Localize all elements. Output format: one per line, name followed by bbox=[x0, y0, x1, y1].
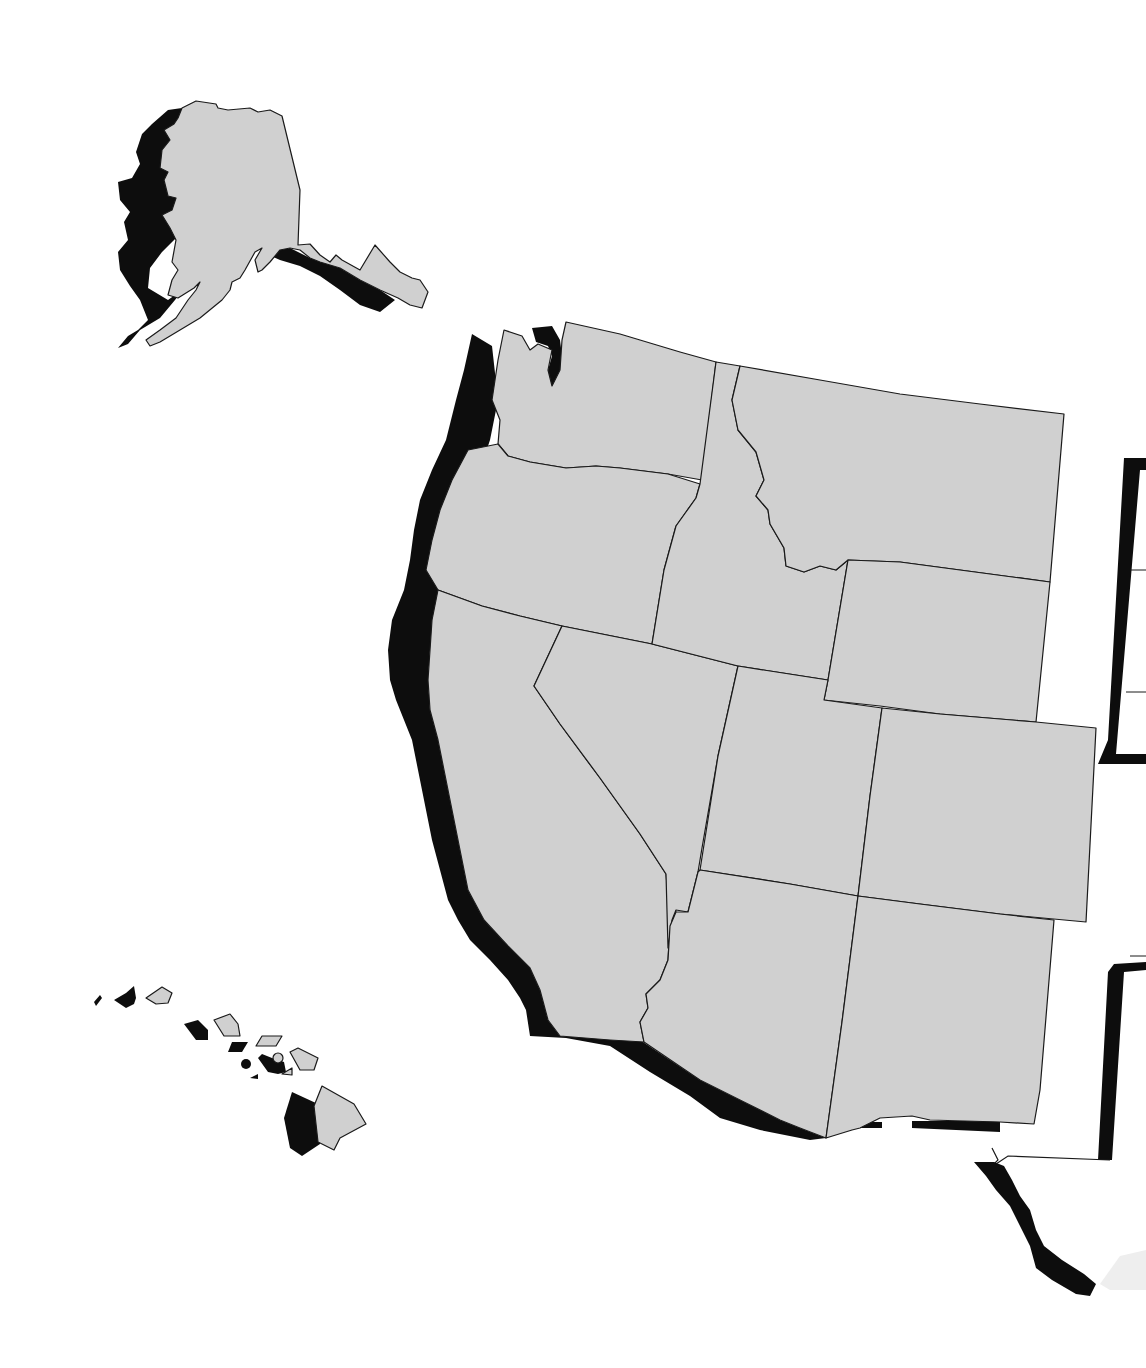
hawaii-molokai bbox=[256, 1036, 282, 1046]
dakotas-edge-shadow bbox=[1098, 458, 1146, 764]
hawaii-kauai bbox=[146, 987, 172, 1004]
hawaii-region bbox=[94, 986, 366, 1156]
hawaii-maui-dot bbox=[273, 1053, 283, 1063]
hawaii-lanai-shadow bbox=[241, 1059, 251, 1069]
western-us-map bbox=[0, 0, 1146, 1368]
alaska-region bbox=[118, 101, 428, 348]
wyoming bbox=[824, 560, 1050, 722]
hawaii-molokai-shadow bbox=[228, 1042, 248, 1052]
new-mexico bbox=[826, 896, 1054, 1138]
hawaii-maui bbox=[290, 1048, 318, 1070]
texas-panhandle-edge-shadow bbox=[1098, 962, 1146, 1160]
hawaii-niihau-shadow bbox=[94, 995, 102, 1006]
rio-grande-shadow bbox=[974, 1162, 1096, 1296]
hawaii-kahoolawe-shadow bbox=[250, 1074, 258, 1079]
hawaii-big-island-shadow bbox=[284, 1092, 320, 1156]
hawaii-oahu bbox=[214, 1014, 240, 1036]
texas-border bbox=[990, 1148, 1110, 1168]
hawaii-kauai-shadow bbox=[114, 986, 136, 1008]
faint-gray-patch bbox=[1100, 1250, 1146, 1290]
new-mexico-border-shadow-2 bbox=[912, 1121, 1000, 1132]
alaska bbox=[146, 101, 428, 346]
colorado bbox=[858, 708, 1096, 922]
hawaii-big-island bbox=[314, 1086, 366, 1150]
hawaii-oahu-shadow bbox=[184, 1020, 208, 1040]
washington bbox=[492, 322, 716, 480]
